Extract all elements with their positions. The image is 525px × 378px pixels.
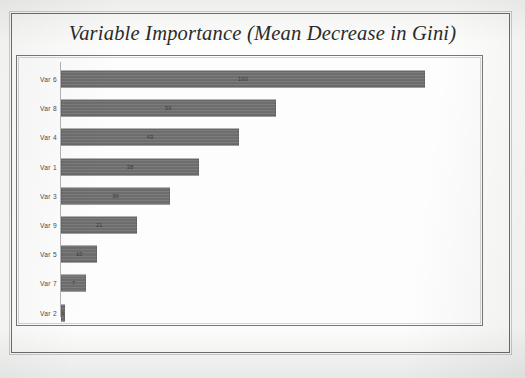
category-label: Var 6 <box>19 76 57 83</box>
category-label: Var 2 <box>19 309 57 316</box>
bar <box>61 100 276 117</box>
category-label: Var 8 <box>19 105 57 112</box>
bar <box>61 187 170 204</box>
bar-row: Var 921 <box>17 210 482 240</box>
bar-row: Var 859 <box>17 93 482 123</box>
bar <box>61 246 97 263</box>
bar <box>61 217 137 234</box>
category-label: Var 3 <box>19 192 57 199</box>
bar-row: Var 77 <box>17 268 482 298</box>
scanned-page: Variable Importance (Mean Decrease in Gi… <box>0 0 525 378</box>
bar-row: Var 6100 <box>17 64 482 94</box>
category-label: Var 9 <box>19 222 57 229</box>
bar-row: Var 330 <box>17 181 482 211</box>
bar-row: Var 510 <box>17 239 482 269</box>
bar-row: Var 138 <box>17 152 482 182</box>
bar-row: Var 449 <box>17 122 482 152</box>
bar <box>61 304 65 321</box>
bar <box>61 158 199 175</box>
category-label: Var 4 <box>19 134 57 141</box>
plot-area: Var 6100Var 859Var 449Var 138Var 330Var … <box>16 55 483 326</box>
bar <box>61 275 86 292</box>
bar <box>61 129 239 146</box>
category-label: Var 7 <box>19 280 57 287</box>
category-label: Var 5 <box>19 251 57 258</box>
bar <box>61 71 425 88</box>
chart-title: Variable Importance (Mean Decrease in Gi… <box>0 22 525 45</box>
category-label: Var 1 <box>19 163 57 170</box>
bar-row: Var 21 <box>17 298 482 328</box>
